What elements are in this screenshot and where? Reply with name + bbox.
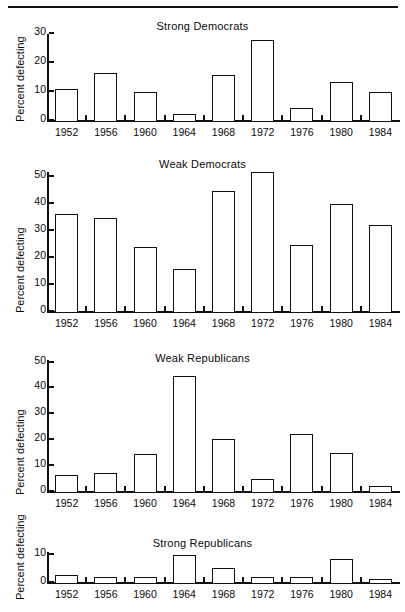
x-axis-tick-label: 1976 (290, 317, 313, 329)
x-axis-tick-label: 1960 (133, 588, 156, 600)
x-axis-tick (281, 306, 283, 313)
x-axis-tick (85, 115, 87, 122)
bar (290, 108, 313, 121)
x-axis-tick-label: 1972 (251, 126, 274, 138)
x-axis-tick-label: 1980 (329, 126, 352, 138)
bar (251, 172, 274, 312)
y-axis-tick: 0 (49, 310, 54, 312)
x-axis-tick-label: 1984 (369, 588, 392, 600)
x-axis-tick (85, 577, 87, 584)
x-axis-tick-label: 1964 (173, 588, 196, 600)
x-axis-tick (281, 486, 283, 493)
x-axis-tick (321, 577, 323, 584)
y-axis-tick-label: 20 (34, 249, 46, 261)
y-axis-label: Percent defecting (14, 36, 26, 122)
x-axis-tick (360, 306, 362, 313)
x-axis-tick (164, 115, 166, 122)
x-axis-tick-label: 1976 (290, 497, 313, 509)
x-axis-tick (281, 115, 283, 122)
y-axis-tick-label: 20 (34, 54, 46, 66)
x-axis-tick-label: 1976 (290, 126, 313, 138)
x-axis-tick (203, 486, 205, 493)
bar (330, 204, 353, 312)
x-axis-tick (281, 577, 283, 584)
y-axis-tick: 0 (49, 581, 54, 583)
y-axis-tick-label: 40 (34, 195, 46, 207)
bar (251, 40, 274, 121)
bar (369, 92, 392, 121)
bar (94, 218, 117, 312)
x-axis-tick-label: 1984 (369, 126, 392, 138)
bar (134, 92, 157, 121)
x-axis-tick-label: 1964 (173, 497, 196, 509)
x-axis-tick (203, 115, 205, 122)
plot-area: 0102030405019521956196019641968197219761… (47, 172, 400, 313)
plot-area: 010195219561960196419681972197619801984 (47, 552, 400, 584)
x-axis-tick-label: 1972 (251, 317, 274, 329)
y-axis-tick: 30 (49, 412, 54, 414)
plot-area: 0102030405019521956196019641968197219761… (47, 360, 400, 493)
bar (173, 269, 196, 312)
y-axis-tick: 50 (49, 361, 54, 363)
x-axis-tick-label: 1972 (251, 588, 274, 600)
x-axis-tick-label: 1952 (55, 588, 78, 600)
y-axis-tick: 40 (49, 202, 54, 204)
x-axis-tick-label: 1980 (329, 317, 352, 329)
bar (369, 579, 392, 583)
x-axis-tick-label: 1956 (94, 126, 117, 138)
x-axis-tick (321, 486, 323, 493)
bar (94, 473, 117, 492)
bar (94, 73, 117, 121)
bar (134, 577, 157, 583)
x-axis-tick (164, 306, 166, 313)
bar (330, 559, 353, 583)
y-axis-tick-label: 10 (34, 83, 46, 95)
x-axis-tick (164, 577, 166, 584)
y-axis-tick: 30 (49, 32, 54, 34)
bar (330, 453, 353, 492)
bar (290, 577, 313, 583)
panel-title: Weak Democrats (0, 158, 405, 170)
y-axis-tick-label: 0 (40, 483, 46, 495)
panel-title: Strong Democrats (0, 20, 405, 32)
bar (212, 75, 235, 121)
bar (55, 214, 78, 312)
bar (330, 82, 353, 121)
bar (55, 89, 78, 121)
y-axis-tick-label: 20 (34, 431, 46, 443)
x-axis-tick (321, 306, 323, 313)
bar (55, 575, 78, 583)
x-axis-tick-label: 1980 (329, 588, 352, 600)
x-axis-tick-label: 1956 (94, 317, 117, 329)
y-axis-tick: 50 (49, 175, 54, 177)
y-axis-tick: 10 (49, 553, 54, 555)
x-axis-tick (124, 306, 126, 313)
y-axis-tick: 10 (49, 90, 54, 92)
x-axis-tick (85, 306, 87, 313)
y-axis-label: Percent defecting (14, 227, 26, 313)
x-axis-tick (124, 115, 126, 122)
x-axis-tick (85, 486, 87, 493)
bar (369, 486, 392, 492)
y-axis-tick: 20 (49, 256, 54, 258)
y-axis-tick-label: 30 (34, 222, 46, 234)
y-axis-tick-label: 0 (40, 574, 46, 586)
x-axis-tick (360, 577, 362, 584)
y-axis-tick-label: 40 (34, 379, 46, 391)
x-axis-tick-label: 1972 (251, 497, 274, 509)
bar (173, 376, 196, 492)
panel-title: Strong Republicans (0, 537, 405, 549)
bar (212, 439, 235, 492)
x-axis-tick (360, 115, 362, 122)
bar (290, 245, 313, 312)
x-axis-tick-label: 1956 (94, 588, 117, 600)
x-axis-tick-label: 1984 (369, 497, 392, 509)
x-axis-tick-label: 1960 (133, 126, 156, 138)
y-axis-label: Percent defecting (14, 409, 26, 495)
bar (173, 555, 196, 583)
bar (134, 454, 157, 492)
x-axis-tick-label: 1952 (55, 497, 78, 509)
y-axis-tick: 10 (49, 283, 54, 285)
y-axis-tick-label: 30 (34, 25, 46, 37)
y-axis-line (47, 360, 49, 493)
